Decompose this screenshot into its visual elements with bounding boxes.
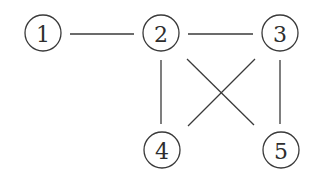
edges	[70, 34, 280, 126]
node-2-label: 2	[154, 22, 168, 47]
node-1: 1	[25, 15, 61, 51]
node-2: 2	[143, 15, 179, 51]
node-3: 3	[262, 15, 298, 51]
node-3-label: 3	[273, 22, 287, 47]
edge-2-5	[187, 59, 254, 125]
node-4-label: 4	[155, 139, 169, 164]
node-5-label: 5	[274, 139, 288, 164]
node-4: 4	[144, 132, 180, 168]
node-5: 5	[263, 132, 299, 168]
node-1-label: 1	[36, 22, 50, 47]
graph-diagram: 1 2 3 4 5	[0, 0, 316, 177]
